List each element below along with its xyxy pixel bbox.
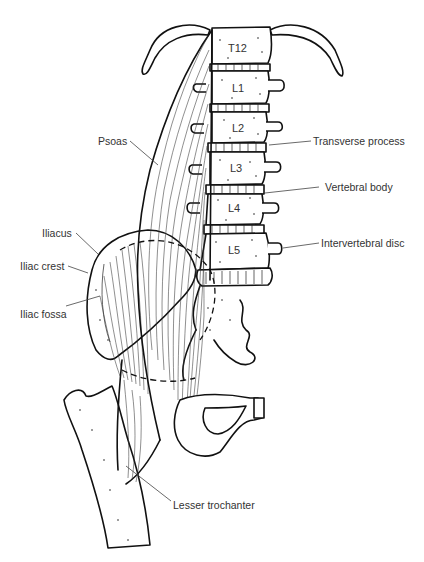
label-iliac-crest: Iliac crest — [20, 261, 64, 272]
vertebra-label-l4: L4 — [228, 202, 240, 214]
leader-iliacus — [76, 233, 98, 254]
sacrum-outline — [193, 286, 255, 365]
right-rib-12 — [270, 25, 343, 76]
label-iliacus: Iliacus — [42, 228, 72, 239]
label-psoas: Psoas — [98, 136, 127, 147]
leader-iliac-crest — [68, 266, 88, 273]
vertebra-label-l2: L2 — [232, 122, 244, 134]
leader-psoas — [130, 141, 158, 165]
vertebra-label-l5: L5 — [228, 244, 240, 256]
label-lesser-trochanter: Lesser trochanter — [173, 500, 255, 511]
vertebra-label-t12: T12 — [228, 42, 247, 54]
label-intervertebral-disc: Intervertebral disc — [321, 238, 404, 249]
pubic-symphysis — [254, 398, 264, 418]
femur — [64, 386, 150, 548]
vertebra-label-l3: L3 — [230, 162, 242, 174]
label-iliac-fossa: Iliac fossa — [20, 309, 67, 320]
pubic-bone — [174, 395, 262, 457]
leader-vertebral-body — [265, 187, 319, 193]
vertebra-label-l1: L1 — [232, 82, 244, 94]
label-transverse-process: Transverse process — [313, 136, 405, 147]
leader-transverse-process — [269, 141, 311, 145]
leader-intervertebral-disc — [283, 243, 319, 248]
label-vertebral-body: Vertebral body — [325, 182, 393, 193]
anatomy-illustration: T12 L1 L2 L3 L4 L5 — [0, 0, 424, 562]
